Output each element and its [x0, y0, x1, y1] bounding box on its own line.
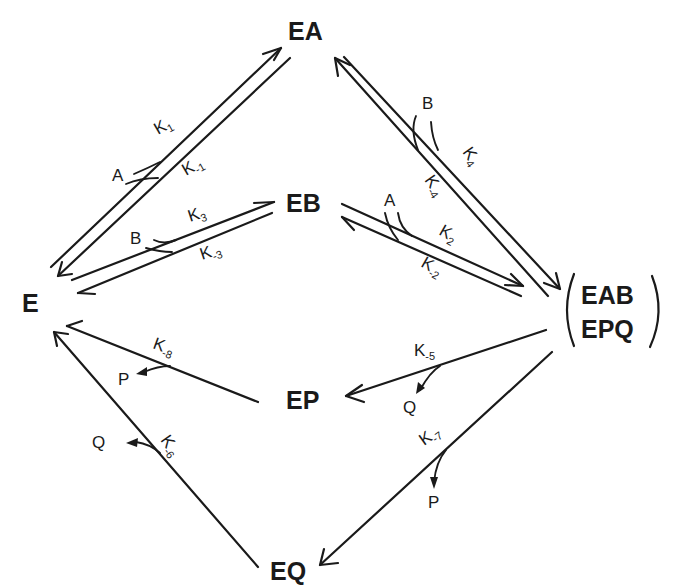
substrate-B-hook	[431, 122, 438, 150]
rate-k-4: K-4	[419, 171, 448, 200]
substrate-B-hook	[146, 248, 172, 252]
substrate-B-hook	[154, 240, 176, 243]
rate-k-6: K-6	[155, 431, 184, 460]
left-parenthesis	[567, 274, 574, 346]
edge-EPQ-EP: Q	[346, 330, 546, 417]
species-B: B	[422, 94, 433, 113]
node-EAB: EAB	[581, 281, 634, 309]
species-Q: Q	[403, 398, 416, 417]
edge-E-EB: B	[72, 202, 274, 294]
node-EA: EA	[288, 17, 323, 45]
arrowhead-icon	[430, 477, 438, 489]
rate-k-8: K-8	[150, 334, 177, 361]
species-P: P	[118, 370, 129, 389]
right-parenthesis	[650, 276, 659, 347]
rate-k4: K4	[457, 143, 484, 169]
rate-k-1: K-1	[179, 152, 208, 181]
arrow-k-3	[78, 213, 272, 293]
species-P: P	[428, 493, 439, 512]
arrow-k-7	[320, 352, 552, 565]
edge-EPQ-EQ: P	[320, 352, 552, 565]
species-A: A	[384, 191, 396, 210]
arrowhead-icon	[67, 321, 82, 326]
arrowhead-icon	[263, 48, 281, 60]
edge-EP-E: P	[67, 321, 258, 402]
species-B: B	[130, 229, 141, 248]
arrowhead-icon	[136, 367, 147, 376]
rate-k2: K2	[435, 221, 461, 248]
node-EP: EP	[286, 386, 319, 414]
node-EQ: EQ	[270, 557, 306, 585]
node-EAB-EPQ-complex: EAB EPQ	[567, 274, 659, 347]
node-EPQ: EPQ	[581, 315, 634, 343]
arrow-k-1	[58, 58, 290, 276]
rate-k-2: K-2	[417, 253, 446, 282]
edge-EA-EAB: B	[335, 57, 560, 296]
rate-k-5: K-5	[414, 341, 435, 362]
arrowhead-icon	[254, 202, 274, 203]
rate-k3: K3	[185, 202, 208, 227]
edge-EB-EAB: A	[342, 191, 523, 296]
rate-k-7: K-7	[415, 422, 444, 451]
rate-k1: K1	[151, 113, 177, 140]
arrowhead-icon	[126, 438, 138, 447]
species-A: A	[112, 166, 124, 185]
node-EB: EB	[286, 189, 321, 217]
arrowhead-icon	[78, 293, 95, 294]
node-E: E	[22, 289, 39, 317]
arrow-k1	[51, 48, 281, 267]
product-P-release	[144, 366, 170, 372]
reaction-mechanism-diagram: EA EB E EP EQ EAB EPQ A K1 K-1 B K3	[0, 0, 679, 588]
species-Q: Q	[92, 433, 105, 452]
